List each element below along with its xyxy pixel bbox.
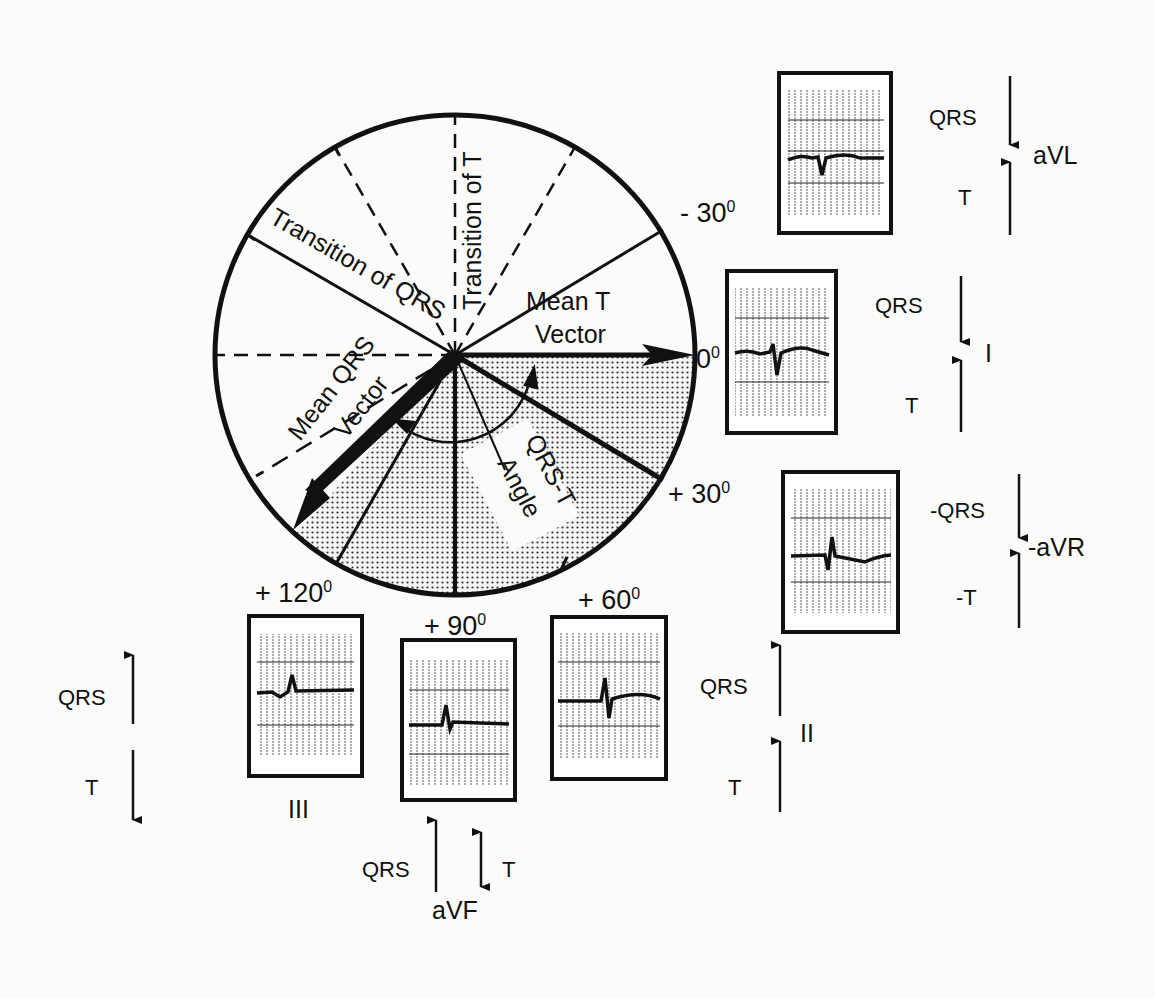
neg-avr-t-label: -T <box>956 585 977 610</box>
ii-qrs-label: QRS <box>700 674 748 699</box>
ii-t-label: T <box>728 775 741 800</box>
avl-t-label: T <box>958 185 971 210</box>
angle-minus-30: - 300 <box>680 198 736 228</box>
angle-0: 00 <box>696 344 720 374</box>
avl-lead-name: aVL <box>1033 141 1078 169</box>
transition-of-t-label: Transition of T <box>458 152 486 310</box>
ii-lead-name: II <box>800 719 814 747</box>
angle-plus-120: + 1200 <box>255 578 332 608</box>
i-lead-name: I <box>985 339 992 367</box>
ecg-panel-avl <box>779 73 891 233</box>
angle-plus-90: + 900 <box>424 611 486 641</box>
avl-qrs-label: QRS <box>929 105 977 130</box>
i-t-label: T <box>905 393 918 418</box>
hexaxial-qrs-t-diagram: Transition of QRS Transition of T Mean T… <box>0 0 1155 998</box>
ecg-panel-iii <box>249 616 362 776</box>
iii-qrs-label: QRS <box>58 685 106 710</box>
iii-t-label: T <box>85 775 98 800</box>
transition-of-qrs-label: Transition of QRS <box>266 202 451 325</box>
iii-lead-name: III <box>288 795 309 823</box>
avf-t-label: T <box>502 857 515 882</box>
angle-plus-60: + 600 <box>578 585 640 615</box>
ecg-panel-avf <box>402 640 515 800</box>
avf-lead-name: aVF <box>432 896 478 924</box>
ecg-panel-i <box>727 271 836 433</box>
neg-avr-lead-name: -aVR <box>1028 533 1085 561</box>
angle-plus-30: + 300 <box>668 479 730 509</box>
ecg-panel-neg-avr <box>783 472 898 632</box>
avf-qrs-label: QRS <box>362 857 410 882</box>
neg-avr-qrs-label: -QRS <box>930 498 985 523</box>
mean-t-vector-label-2: Vector <box>535 320 606 348</box>
mean-t-vector-label-1: Mean T <box>526 287 610 315</box>
ecg-panel-ii <box>552 617 666 779</box>
i-qrs-label: QRS <box>875 293 923 318</box>
